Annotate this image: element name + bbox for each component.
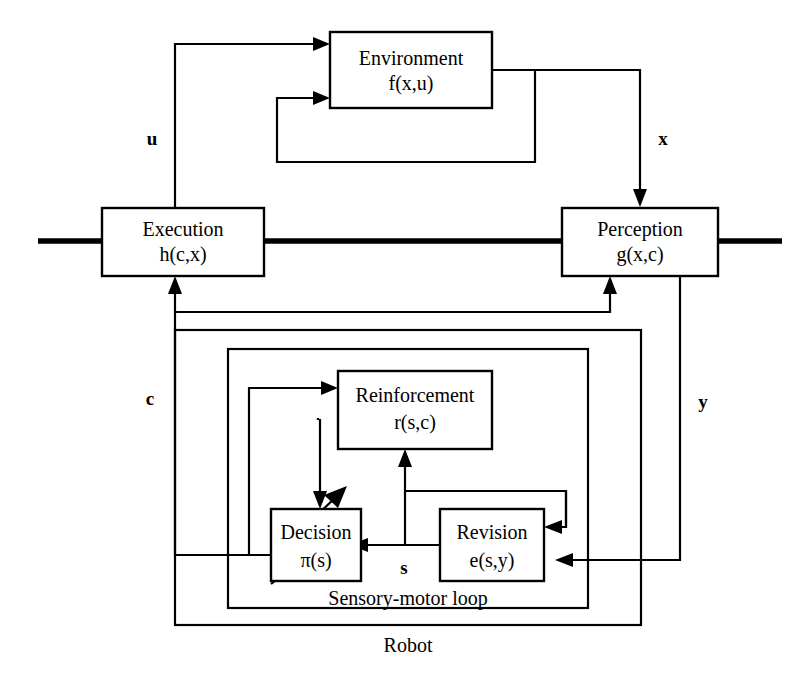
group-label-robot: Robot — [384, 634, 433, 656]
group-label-sensory-motor-loop: Sensory-motor loop — [328, 587, 487, 610]
arrowhead-revision-upper-input — [544, 520, 562, 534]
arrowhead-execution-bottom-input — [168, 276, 182, 294]
arrowhead-reinforcement-bottom-input — [398, 449, 412, 467]
box-execution-line1: Execution — [142, 218, 223, 240]
arrowhead-environment-lower-input — [313, 91, 330, 105]
box-environment-line2: f(x,u) — [389, 72, 434, 95]
edge-u-execution-to-environment — [175, 44, 321, 208]
diagram-canvas: Environment f(x,u) Execution h(c,x) Perc… — [0, 0, 806, 688]
arrowhead-revision-lower-input — [555, 553, 573, 567]
box-reinforcement-line1: Reinforcement — [356, 384, 475, 406]
edge-label-y: y — [698, 391, 708, 412]
box-perception-line2: g(x,c) — [616, 243, 663, 266]
box-revision-line2: e(s,y) — [470, 549, 515, 572]
box-decision-line2: π(s) — [300, 549, 331, 572]
box-perception-line1: Perception — [597, 218, 683, 241]
edge-x-environment-to-perception — [492, 70, 640, 196]
box-environment-line1: Environment — [359, 47, 464, 69]
arrowhead-environment-upper-input — [313, 37, 330, 51]
edge-label-c: c — [146, 388, 154, 409]
edge-c-branch-to-perception — [175, 288, 610, 312]
box-environment — [330, 32, 492, 108]
edge-label-x: x — [658, 128, 668, 149]
arrowhead-perception-bottom-input — [603, 276, 617, 294]
box-reinforcement-line2: r(s,c) — [394, 411, 436, 434]
box-decision-line1: Decision — [280, 521, 351, 543]
block-diagram: Environment f(x,u) Execution h(c,x) Perc… — [0, 0, 806, 688]
edge-y-perception-to-revision — [566, 264, 680, 560]
arrowhead-reinforcement-left-input — [321, 381, 338, 395]
edge-label-u: u — [147, 128, 158, 149]
box-revision-line1: Revision — [456, 521, 527, 543]
arrowhead-perception-top-input — [633, 189, 647, 207]
box-execution-line2: h(c,x) — [159, 243, 206, 266]
edge-label-s: s — [400, 557, 407, 578]
